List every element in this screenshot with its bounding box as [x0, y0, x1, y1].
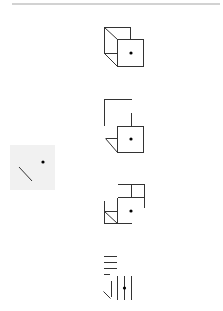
- reference-dot: [41, 160, 44, 163]
- option-2-dot: [129, 137, 132, 140]
- option-1-top-diagonal: [105, 28, 118, 40]
- option-1[interactable]: [105, 28, 144, 67]
- option-2[interactable]: [105, 100, 144, 153]
- option-4-diagonal: [104, 292, 111, 299]
- reference-diagonal-line: [19, 167, 32, 181]
- option-2-corner-l: [105, 100, 132, 126]
- option-4-dot: [123, 286, 126, 289]
- option-3-side-diagonal: [105, 212, 118, 224]
- option-3[interactable]: [105, 185, 145, 224]
- option-2-triangle-diagonal: [106, 139, 118, 153]
- option-3-dot: [129, 209, 132, 212]
- reference-face: [19, 160, 45, 181]
- puzzle-canvas: [0, 0, 223, 311]
- option-1-bottom-diagonal: [105, 54, 118, 67]
- option-1-dot: [129, 51, 132, 54]
- option-4[interactable]: [104, 257, 132, 301]
